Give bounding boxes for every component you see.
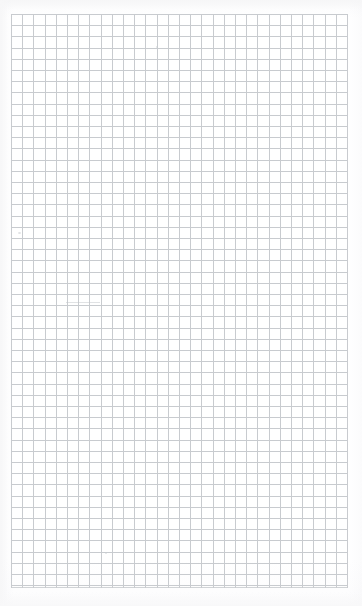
grid-bottom-edge-line [11,587,348,588]
page-edge-shade-top [0,0,362,10]
grid-right-edge-line [347,14,348,588]
grid-paper-page [0,0,362,606]
page-edge-shade-left [0,0,8,606]
page-edge-shade-bottom [0,592,362,606]
speck-upper-center [156,46,158,48]
speck-lower-center [105,552,107,554]
streak-mid-left [66,302,100,303]
speck-upper-left [18,232,21,234]
grid-area [11,14,348,588]
